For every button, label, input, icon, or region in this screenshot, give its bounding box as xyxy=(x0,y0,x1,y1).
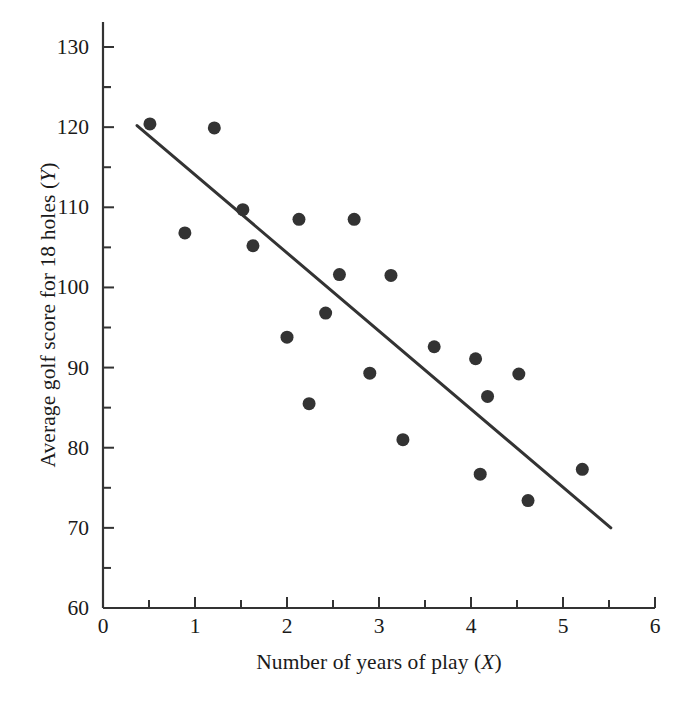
data-point xyxy=(303,397,316,410)
x-axis-label: Number of years of play (X) xyxy=(103,650,655,675)
data-point xyxy=(384,269,397,282)
x-tick-label: 5 xyxy=(558,614,569,639)
data-point xyxy=(396,433,409,446)
data-point xyxy=(469,352,482,365)
data-point xyxy=(292,213,305,226)
data-point xyxy=(319,307,332,320)
x-tick-label: 6 xyxy=(650,614,661,639)
data-point xyxy=(333,268,346,281)
data-point xyxy=(348,213,361,226)
regression-line-segment xyxy=(137,126,611,528)
x-tick-label: 2 xyxy=(282,614,293,639)
y-axis-label-text: Average golf score for 18 holes (Y) xyxy=(36,162,60,467)
data-point xyxy=(281,331,294,344)
scatter-plot-figure: 60708090100110120130 0123456 Average gol… xyxy=(0,0,686,713)
x-axis-label-text: Number of years of play (X) xyxy=(256,650,502,674)
data-point xyxy=(576,463,589,476)
axes-group xyxy=(103,22,655,608)
axis-variable-symbol: Y xyxy=(36,170,60,182)
x-tick-label: 4 xyxy=(466,614,477,639)
data-points-group xyxy=(143,117,588,507)
x-tick-label: 0 xyxy=(98,614,109,639)
y-tick-label: 80 xyxy=(68,435,90,460)
data-point xyxy=(178,226,191,239)
data-point xyxy=(474,468,487,481)
data-point xyxy=(522,494,535,507)
data-point xyxy=(363,367,376,380)
plot-canvas xyxy=(0,0,686,713)
data-point xyxy=(512,367,525,380)
x-tick-label: 3 xyxy=(374,614,385,639)
regression-line xyxy=(137,126,611,528)
data-point xyxy=(143,117,156,130)
x-tick-label: 1 xyxy=(190,614,201,639)
y-tick-label: 60 xyxy=(68,596,90,621)
y-axis-label: Average golf score for 18 holes (Y) xyxy=(28,5,68,625)
data-point xyxy=(208,121,221,134)
axis-variable-symbol: X xyxy=(481,650,494,674)
data-point xyxy=(246,239,259,252)
data-point xyxy=(428,340,441,353)
data-point xyxy=(236,203,249,216)
data-point xyxy=(481,390,494,403)
y-tick-label: 70 xyxy=(68,515,90,540)
y-tick-label: 90 xyxy=(68,355,90,380)
